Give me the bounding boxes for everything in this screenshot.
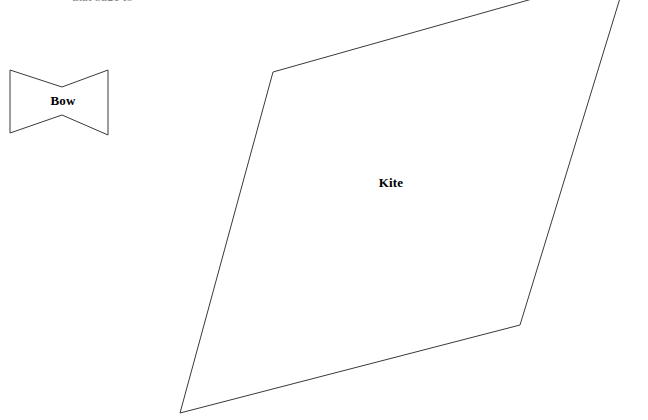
figure-page: that page to Bow Kite (0, 0, 648, 420)
geometry-canvas (0, 0, 648, 420)
kite-label: Kite (379, 175, 404, 191)
kite-polygon (180, 0, 628, 413)
bow-label: Bow (50, 93, 75, 109)
